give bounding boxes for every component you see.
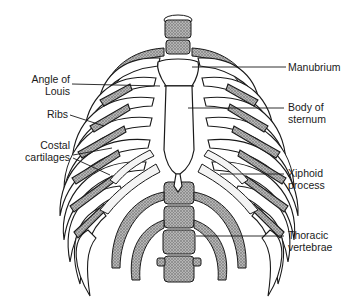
rib-cage-diagram: Angle of Louis Ribs Costal cartilages Ma… — [0, 0, 357, 303]
body-of-sternum — [164, 86, 194, 174]
label-body-of-sternum: Body of sternum — [288, 101, 326, 125]
label-xiphoid-process: Xiphoid process — [288, 167, 325, 191]
label-manubrium: Manubrium — [288, 61, 341, 73]
sternum — [158, 59, 199, 192]
label-ribs: Ribs — [16, 108, 68, 120]
label-costal-cartilages: Costal cartilages — [10, 139, 70, 163]
manubrium — [158, 59, 199, 86]
label-angle-of-louis: Angle of Louis — [16, 73, 70, 97]
label-thoracic-vertebrae: Thoracic vertebrae — [288, 229, 332, 253]
